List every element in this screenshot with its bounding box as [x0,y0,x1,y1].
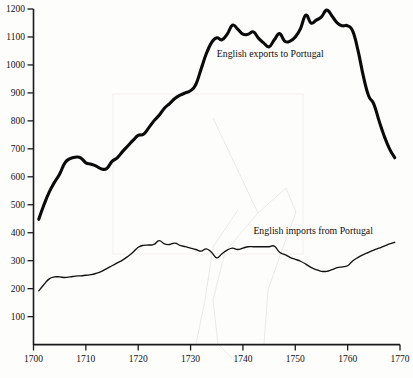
series-label-exports: English exports to Portugal [217,48,324,59]
y-axis: 100200300400500600700800900100011001200 [6,4,34,345]
y-tick-label: 400 [11,228,26,238]
x-tick-label: 1730 [181,354,200,364]
y-tick-label: 500 [11,200,26,210]
y-tick-label: 800 [11,116,26,126]
x-tick-label: 1720 [129,354,148,364]
y-tick-label: 600 [11,172,26,182]
series-label-imports: English imports from Portugal [253,225,373,236]
y-tick-label: 700 [11,144,26,154]
y-tick-label: 1000 [6,60,25,70]
y-tick-label: 900 [11,88,26,98]
x-tick-label: 1710 [76,354,95,364]
x-tick-label: 1740 [233,354,252,364]
chart-container: 100200300400500600700800900100011001200 … [0,0,413,378]
x-tick-label: 1750 [286,354,305,364]
x-axis: 17001710172017301740175017601770 [24,345,410,364]
y-tick-label: 1200 [6,4,25,14]
x-tick-label: 1770 [391,354,410,364]
series-annotations: English exports to PortugalEnglish impor… [217,48,373,237]
x-tick-label: 1700 [24,354,43,364]
series-line-english-exports-to-portugal [39,10,395,219]
series-line-english-imports-from-portugal [39,241,395,291]
y-tick-label: 1100 [6,32,25,42]
y-tick-label: 300 [11,256,26,266]
y-tick-label: 100 [11,312,26,322]
y-tick-label: 200 [11,284,26,294]
x-tick-label: 1760 [338,354,357,364]
trade-line-chart: 100200300400500600700800900100011001200 … [0,0,413,378]
